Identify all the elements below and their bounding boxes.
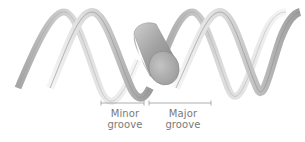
major-groove-bracket: [149, 101, 211, 106]
minor-groove-label: Minor groove: [105, 108, 145, 130]
major-groove-label: Major groove: [153, 108, 213, 130]
major-groove-label-line1: Major: [153, 108, 213, 119]
major-groove-label-line2: groove: [153, 119, 213, 130]
minor-groove-label-line1: Minor: [105, 108, 145, 119]
dna-diagram: Minor groove Major groove: [0, 0, 305, 142]
minor-groove-label-line2: groove: [105, 119, 145, 130]
